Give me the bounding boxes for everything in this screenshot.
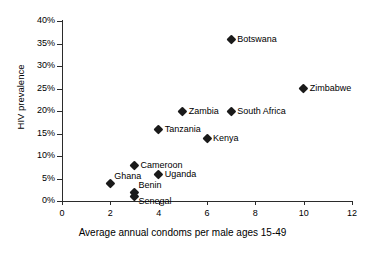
- y-tick-label-holder: 40%: [0, 16, 55, 26]
- x-axis-title: Average annual condoms per male ages 15-…: [0, 227, 365, 239]
- diamond-marker-icon: [154, 169, 164, 179]
- y-tick-label-holder: 35%: [0, 39, 55, 49]
- x-tick-mark: [255, 201, 256, 205]
- diamond-marker-icon: [226, 34, 236, 44]
- x-tick-mark: [110, 201, 111, 205]
- data-point-label: Benin: [139, 181, 162, 190]
- y-tick-label: 0%: [27, 196, 55, 205]
- data-point-label: Tanzania: [165, 125, 201, 134]
- y-tick-mark: [57, 134, 62, 135]
- data-point-label: Zimbabwe: [310, 84, 352, 93]
- y-tick-label-holder: 25%: [0, 84, 55, 94]
- y-tick-label: 10%: [27, 151, 55, 160]
- y-tick-label: 40%: [27, 16, 55, 25]
- y-tick-label-holder: 10%: [0, 151, 55, 161]
- x-tick-mark: [207, 201, 208, 205]
- y-tick-mark: [57, 156, 62, 157]
- y-tick-label-holder: 20%: [0, 106, 55, 116]
- y-tick-label-holder: 0%: [0, 196, 55, 206]
- y-axis-line: [62, 20, 63, 202]
- y-axis-title: HIV prevalence: [16, 37, 26, 157]
- x-tick-label: 4: [147, 208, 171, 218]
- y-tick-label: 25%: [27, 84, 55, 93]
- y-tick-mark: [57, 179, 62, 180]
- y-tick-mark: [57, 66, 62, 67]
- y-tick-label: 30%: [27, 61, 55, 70]
- y-tick-label: 35%: [27, 39, 55, 48]
- y-tick-mark: [57, 111, 62, 112]
- diamond-marker-icon: [178, 106, 188, 116]
- y-tick-label-holder: 15%: [0, 129, 55, 139]
- y-tick-mark: [57, 21, 62, 22]
- x-tick-label: 8: [243, 208, 267, 218]
- y-tick-label-holder: 30%: [0, 61, 55, 71]
- data-point-label: South Africa: [237, 107, 286, 116]
- diamond-marker-icon: [226, 106, 236, 116]
- scatter-chart: 0%5%10%15%20%25%30%35%40% 024681012 HIV …: [0, 0, 365, 254]
- data-point-label: Botswana: [237, 35, 277, 44]
- x-tick-mark: [304, 201, 305, 205]
- data-point-label: Ghana: [114, 172, 141, 181]
- x-tick-label: 10: [292, 208, 316, 218]
- y-tick-label: 5%: [27, 174, 55, 183]
- y-tick-mark: [57, 89, 62, 90]
- diamond-marker-icon: [154, 124, 164, 134]
- x-tick-label: 6: [195, 208, 219, 218]
- y-tick-label-holder: 5%: [0, 174, 55, 184]
- diamond-marker-icon: [202, 133, 212, 143]
- data-point-label: Kenya: [213, 134, 239, 143]
- diamond-marker-icon: [299, 84, 309, 94]
- data-point-label: Senegal: [139, 197, 172, 206]
- data-point-label: Zambia: [189, 107, 219, 116]
- y-tick-label: 15%: [27, 129, 55, 138]
- x-tick-label: 2: [98, 208, 122, 218]
- x-tick-mark: [62, 201, 63, 205]
- data-point-label: Uganda: [165, 170, 197, 179]
- x-tick-label: 0: [50, 208, 74, 218]
- x-tick-label: 12: [340, 208, 364, 218]
- diamond-marker-icon: [130, 160, 140, 170]
- y-tick-mark: [57, 44, 62, 45]
- y-tick-label: 20%: [27, 106, 55, 115]
- x-tick-mark: [352, 201, 353, 205]
